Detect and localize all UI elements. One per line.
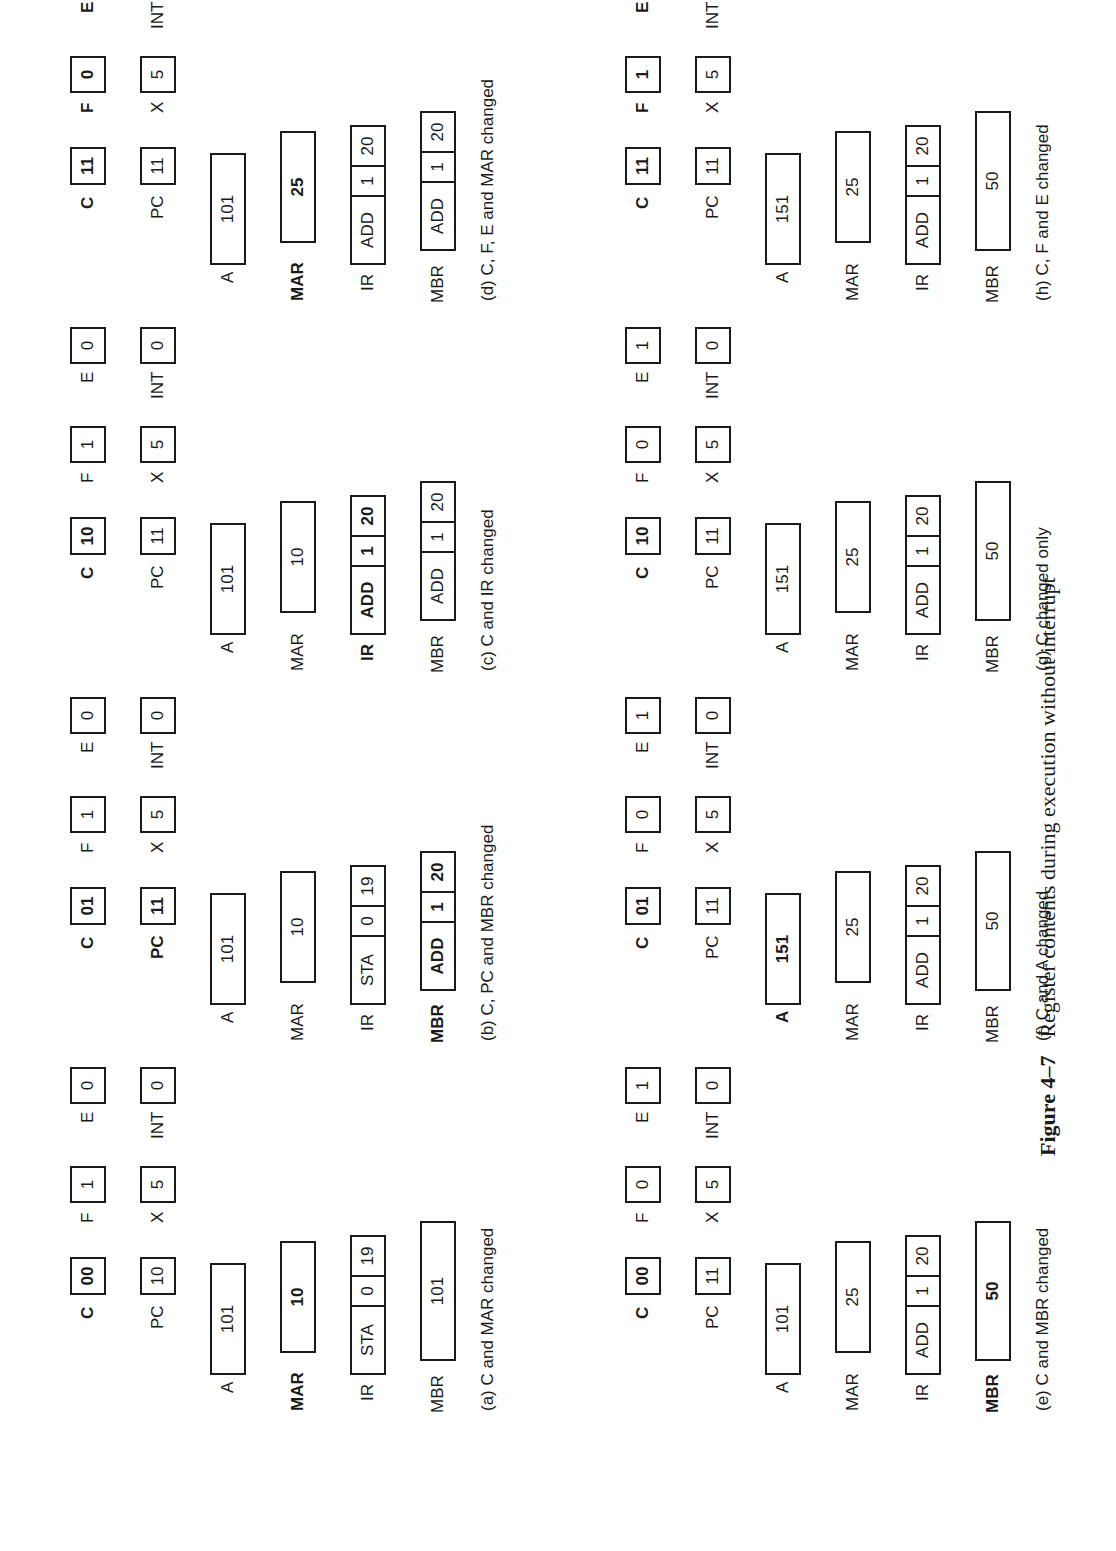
register-box-ir: ADD120 — [905, 125, 941, 265]
register-box-a: 151 — [765, 153, 801, 265]
register-label-pc: PC — [695, 565, 731, 589]
register-field-opcode: ADD — [422, 921, 454, 989]
register-label-ir: IR — [905, 274, 941, 291]
register-value-x: 5 — [703, 70, 723, 79]
register-box-a: 151 — [765, 523, 801, 635]
register-label-x: X — [695, 472, 731, 483]
register-panel-f: C01F0E1PC11X5INT0A151MAR25IRADD120MBR50(… — [555, 801, 1075, 1181]
register-box-pc: 11 — [695, 517, 731, 555]
register-box-a: 101 — [765, 1263, 801, 1375]
register-value-a: 101 — [218, 195, 238, 223]
panel-caption: (b) C, PC and MBR changed — [478, 825, 498, 1041]
register-value-pc: 11 — [148, 527, 168, 545]
register-label-f: F — [70, 473, 106, 483]
register-box-ir: ADD120 — [905, 865, 941, 1005]
register-label-mar: MAR — [280, 262, 316, 301]
register-label-x: X — [140, 1212, 176, 1223]
register-field-address: 20 — [907, 867, 939, 905]
register-label-f: F — [70, 843, 106, 853]
register-box-mbr: ADD120 — [420, 111, 456, 251]
register-label-e: E — [70, 2, 106, 13]
register-box-pc: 11 — [695, 147, 731, 185]
register-value-mbr: 101 — [428, 1277, 448, 1305]
register-value-f: 0 — [633, 810, 653, 819]
register-box-pc: 11 — [140, 887, 176, 925]
register-label-x: X — [140, 472, 176, 483]
register-panel-c: C10F1E0PC11X5INT0A101MAR10IRADD120MBRADD… — [0, 431, 520, 811]
register-field-indirect-bit: 1 — [422, 891, 454, 921]
register-box-a: 101 — [210, 523, 246, 635]
register-field-indirect-bit: 1 — [422, 151, 454, 181]
register-box-c: 00 — [625, 1257, 661, 1295]
register-box-c: 10 — [625, 517, 661, 555]
register-box-mbr: ADD120 — [420, 851, 456, 991]
register-box-mbr: ADD120 — [420, 481, 456, 621]
register-box-ir: ADD120 — [905, 495, 941, 635]
register-field-opcode: ADD — [907, 935, 939, 1003]
figure-number: Figure 4–7 — [1035, 1056, 1060, 1156]
register-value-x: 5 — [148, 70, 168, 79]
register-value-pc: 10 — [148, 1267, 168, 1286]
register-field-address: 20 — [422, 113, 454, 151]
register-value-mar: 25 — [843, 178, 863, 197]
register-label-a: A — [210, 272, 246, 283]
register-label-a: A — [765, 1011, 801, 1023]
register-label-mar: MAR — [280, 1372, 316, 1411]
register-label-f: F — [625, 103, 661, 113]
register-label-f: F — [625, 843, 661, 853]
register-label-ir: IR — [905, 1384, 941, 1401]
register-value-a: 151 — [773, 565, 793, 593]
register-box-pc: 11 — [695, 1257, 731, 1295]
figure-caption: Figure 4–7Register contents during execu… — [1035, 578, 1061, 1157]
register-field-address: 20 — [907, 497, 939, 535]
register-box-mbr: 101 — [420, 1221, 456, 1361]
register-value-f: 1 — [633, 70, 653, 79]
register-panel-b: C01F1E0PC11X5INT0A101MAR10IRSTA019MBRADD… — [0, 801, 520, 1181]
register-field-address: 20 — [352, 127, 384, 165]
register-field-address: 20 — [907, 127, 939, 165]
register-label-ir: IR — [905, 1014, 941, 1031]
register-box-mar: 25 — [835, 131, 871, 243]
register-label-mbr: MBR — [975, 265, 1011, 303]
register-box-c: 01 — [625, 887, 661, 925]
register-field-indirect-bit: 1 — [907, 1275, 939, 1305]
register-value-mar: 25 — [843, 548, 863, 567]
register-label-x: X — [695, 102, 731, 113]
register-value-a: 101 — [773, 1305, 793, 1333]
register-field-opcode: ADD — [907, 195, 939, 263]
register-label-c: C — [70, 937, 106, 949]
register-label-ir: IR — [350, 644, 386, 661]
register-label-mbr: MBR — [420, 1375, 456, 1413]
register-box-mbr: 50 — [975, 481, 1011, 621]
register-label-c: C — [625, 937, 661, 949]
register-field-opcode: ADD — [422, 551, 454, 619]
register-field-address: 20 — [422, 853, 454, 891]
register-label-c: C — [70, 567, 106, 579]
register-value-f: 1 — [78, 810, 98, 819]
register-field-opcode: ADD — [907, 565, 939, 633]
register-value-c: 01 — [633, 897, 653, 916]
register-field-opcode: ADD — [352, 195, 384, 263]
register-box-c: 01 — [70, 887, 106, 925]
register-field-indirect-bit: 0 — [352, 905, 384, 935]
register-value-pc: 11 — [703, 1267, 723, 1285]
register-value-x: 5 — [703, 1180, 723, 1189]
register-label-a: A — [210, 1382, 246, 1393]
register-value-a: 101 — [218, 1305, 238, 1333]
register-box-mar: 10 — [280, 871, 316, 983]
register-value-pc: 11 — [148, 157, 168, 175]
register-label-ir: IR — [350, 274, 386, 291]
register-label-c: C — [70, 1307, 106, 1319]
register-value-x: 5 — [148, 1180, 168, 1189]
register-box-c: 00 — [70, 1257, 106, 1295]
register-label-f: F — [70, 1213, 106, 1223]
register-label-mbr: MBR — [975, 1005, 1011, 1043]
register-value-mar: 10 — [288, 1288, 308, 1307]
register-label-a: A — [210, 642, 246, 653]
register-value-a: 101 — [218, 565, 238, 593]
register-label-pc: PC — [140, 565, 176, 589]
register-value-f: 0 — [633, 1180, 653, 1189]
register-box-pc: 11 — [140, 147, 176, 185]
register-field-address: 20 — [352, 497, 384, 535]
register-box-ir: ADD120 — [350, 495, 386, 635]
